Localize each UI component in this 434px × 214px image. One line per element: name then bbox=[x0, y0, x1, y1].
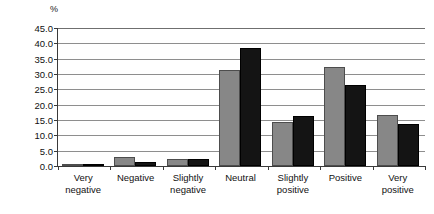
y-tick-label: 25.0 bbox=[17, 84, 53, 95]
x-tick-mark bbox=[320, 166, 321, 170]
x-tick-mark bbox=[163, 166, 164, 170]
bar bbox=[324, 67, 345, 166]
bar-group bbox=[373, 28, 425, 166]
x-tick-mark bbox=[373, 166, 374, 170]
bar bbox=[114, 157, 135, 166]
y-axis-unit-label: % bbox=[24, 4, 58, 14]
x-tick-mark bbox=[110, 166, 111, 170]
bar-group bbox=[163, 28, 215, 166]
y-tick-label: 30.0 bbox=[17, 69, 53, 80]
bar bbox=[219, 70, 240, 166]
x-category-label-line: positive bbox=[362, 184, 434, 196]
bar bbox=[167, 159, 188, 166]
y-tick-label: 20.0 bbox=[17, 99, 53, 110]
x-tick-mark bbox=[58, 166, 59, 170]
bar-group bbox=[215, 28, 267, 166]
bar bbox=[377, 115, 398, 166]
x-category-label-line: positive bbox=[257, 184, 329, 196]
x-category-label-line: negative bbox=[152, 184, 224, 196]
y-tick-label: 10.0 bbox=[17, 130, 53, 141]
bar bbox=[62, 164, 83, 166]
bar bbox=[83, 164, 104, 166]
x-category-label-line: negative bbox=[47, 184, 119, 196]
x-tick-mark bbox=[425, 166, 426, 170]
y-tick-label: 35.0 bbox=[17, 53, 53, 64]
y-tick-label: 15.0 bbox=[17, 115, 53, 126]
bar-group bbox=[58, 28, 110, 166]
x-category-label-line: Very bbox=[362, 172, 434, 184]
plot-area bbox=[57, 28, 425, 167]
bar bbox=[293, 116, 314, 166]
x-tick-mark bbox=[268, 166, 269, 170]
bar bbox=[135, 162, 156, 166]
bar bbox=[345, 85, 366, 166]
x-tick-mark bbox=[215, 166, 216, 170]
bar bbox=[272, 122, 293, 166]
bar bbox=[188, 159, 209, 166]
x-category-label: Verypositive bbox=[362, 172, 434, 196]
y-tick-label: 40.0 bbox=[17, 38, 53, 49]
bar-group bbox=[320, 28, 372, 166]
bar-group bbox=[110, 28, 162, 166]
y-tick-label: 5.0 bbox=[17, 145, 53, 156]
bar-group bbox=[268, 28, 320, 166]
bar bbox=[240, 48, 261, 166]
bar bbox=[398, 124, 419, 166]
y-tick-label: 0.0 bbox=[17, 161, 53, 172]
y-tick-label: 45.0 bbox=[17, 23, 53, 34]
bar-chart: % 0.05.010.015.020.025.030.035.040.045.0… bbox=[0, 0, 434, 214]
